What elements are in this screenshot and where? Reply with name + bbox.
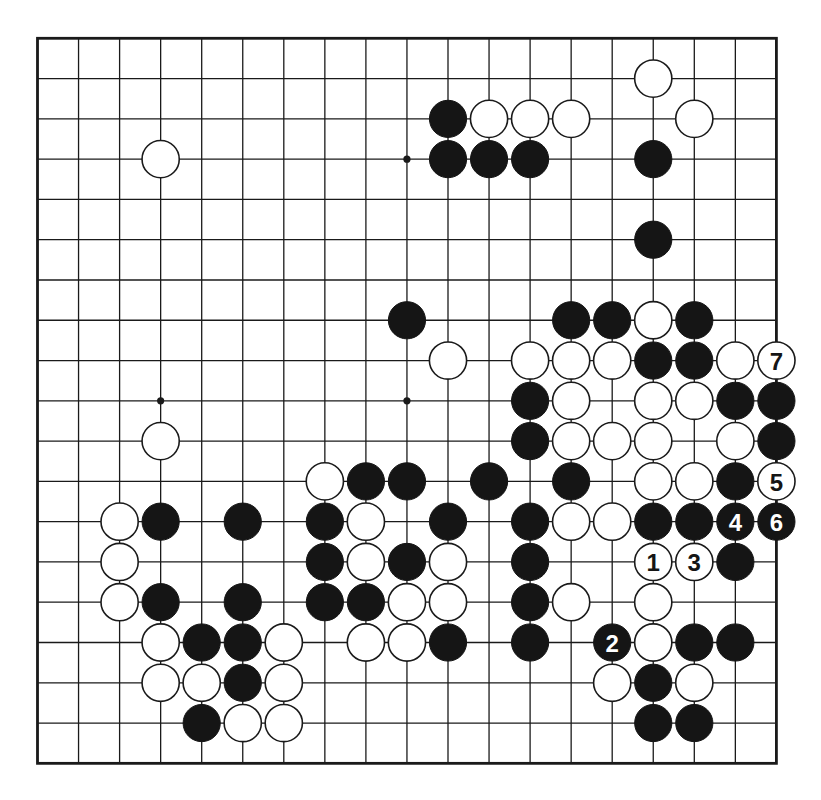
white-stone-icon [429,342,466,379]
white-stone [594,664,631,701]
black-stone-icon [429,503,466,540]
numbered-black-stone: 2 [594,624,631,661]
white-stone-icon [101,584,138,621]
black-stone [347,463,384,500]
black-stone-icon [388,302,425,339]
white-stone-icon [594,503,631,540]
black-stone-icon [306,503,343,540]
black-stone-icon [306,543,343,580]
white-stone-icon [470,100,507,137]
black-stone-icon [553,302,590,339]
white-stone [388,584,425,621]
white-stone-icon [142,423,179,460]
move-number-label: 6 [770,509,783,536]
black-stone [306,543,343,580]
white-stone [470,100,507,137]
white-stone [347,624,384,661]
black-stone [429,100,466,137]
black-stone [388,543,425,580]
white-stone [511,342,548,379]
black-stone [429,624,466,661]
white-stone-icon [553,342,590,379]
white-stone-icon [635,624,672,661]
white-stone [717,342,754,379]
white-stone-icon [676,463,713,500]
numbered-white-stone: 1 [635,543,672,580]
black-stone-icon [183,704,220,741]
black-stone-icon [635,141,672,178]
white-stone-icon [347,503,384,540]
black-stone-icon [142,584,179,621]
white-stone-icon [594,342,631,379]
white-stone [635,60,672,97]
black-stone-icon [717,624,754,661]
black-stone [511,423,548,460]
black-stone [635,664,672,701]
black-stone-icon [347,584,384,621]
black-stone-icon [429,141,466,178]
black-stone-icon [635,503,672,540]
black-stone-icon [511,543,548,580]
white-stone-icon [553,584,590,621]
black-stone [306,584,343,621]
white-stone [676,463,713,500]
white-stone-icon [265,664,302,701]
white-stone-icon [676,382,713,419]
black-stone-icon [635,664,672,701]
white-stone [635,382,672,419]
white-stone-icon [183,664,220,701]
black-stone [635,704,672,741]
black-stone [511,543,548,580]
white-stone [101,584,138,621]
white-stone-icon [717,423,754,460]
black-stone-icon [511,584,548,621]
white-stone-icon [388,584,425,621]
black-stone [635,221,672,258]
white-stone [676,664,713,701]
white-stone [183,664,220,701]
black-stone [470,463,507,500]
black-stone [511,382,548,419]
black-stone-icon [676,302,713,339]
white-stone-icon [717,342,754,379]
white-stone-icon [224,704,261,741]
white-stone [594,503,631,540]
black-stone-icon [676,503,713,540]
white-stone [388,624,425,661]
black-stone [511,503,548,540]
white-stone [635,624,672,661]
black-stone [306,503,343,540]
black-stone [511,584,548,621]
black-stone-icon [306,584,343,621]
white-stone-icon [347,543,384,580]
black-stone-icon [511,141,548,178]
numbered-white-stone: 7 [758,342,795,379]
white-stone [224,704,261,741]
black-stone-icon [388,463,425,500]
black-stone-icon [635,704,672,741]
white-stone-icon [635,302,672,339]
black-stone-icon [429,624,466,661]
black-stone [594,302,631,339]
white-stone-icon [142,624,179,661]
black-stone [635,503,672,540]
black-stone [676,302,713,339]
white-stone [429,584,466,621]
move-number-label: 2 [606,630,619,657]
black-stone [429,503,466,540]
white-stone-icon [635,584,672,621]
white-stone [142,423,179,460]
white-stone-icon [594,664,631,701]
white-stone [717,423,754,460]
black-stone [429,141,466,178]
move-number-label: 1 [647,549,660,576]
white-stone [553,342,590,379]
white-stone-icon [511,342,548,379]
white-stone [142,624,179,661]
black-stone [183,704,220,741]
white-stone [142,664,179,701]
black-stone [758,382,795,419]
black-stone [224,503,261,540]
black-stone [635,342,672,379]
white-stone-icon [553,423,590,460]
